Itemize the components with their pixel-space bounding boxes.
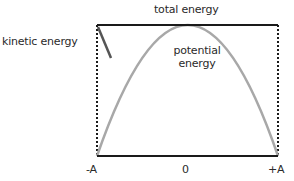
kinetic-energy-line xyxy=(98,27,111,58)
potential-energy-label-line2: energy xyxy=(162,57,232,70)
x-tick-pos-amplitude: +A xyxy=(268,164,284,175)
kinetic-energy-label: kinetic energy xyxy=(2,36,78,47)
potential-energy-label: potential energy xyxy=(162,44,232,70)
energy-diagram-canvas xyxy=(0,0,294,181)
x-tick-neg-amplitude: -A xyxy=(86,164,97,175)
total-energy-label: total energy xyxy=(154,4,219,15)
potential-energy-label-line1: potential xyxy=(162,44,232,57)
x-tick-zero: 0 xyxy=(182,164,189,175)
